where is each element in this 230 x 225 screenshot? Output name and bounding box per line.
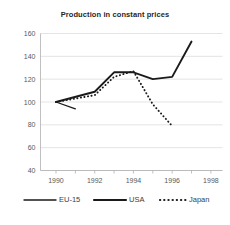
y-tick-label-100: 100 (24, 99, 36, 106)
chart-plot-svg: 406080100120140160 19901992199419961998 … (0, 0, 230, 225)
data-series (56, 41, 192, 125)
gridlines (41, 34, 223, 171)
legend-label-usa: USA (129, 195, 144, 204)
x-tick-label-1990: 1990 (48, 177, 64, 184)
y-tick-label-80: 80 (28, 121, 36, 128)
y-tick-label-160: 160 (24, 30, 36, 37)
chart-container: Production in constant prices 4060801001… (0, 0, 230, 225)
legend-label-eu-15: EU-15 (59, 195, 80, 204)
y-tick-label-120: 120 (24, 76, 36, 83)
y-tick-label-140: 140 (24, 53, 36, 60)
legend-label-japan: Japan (189, 195, 209, 204)
x-tick-label-1994: 1994 (126, 177, 142, 184)
x-tick-label-1998: 1998 (203, 177, 219, 184)
series-line-usa (56, 41, 192, 102)
series-line-eu-15 (56, 102, 75, 109)
y-axis: 406080100120140160 (24, 30, 41, 174)
x-tick-label-1996: 1996 (164, 177, 180, 184)
x-tick-label-1992: 1992 (87, 177, 103, 184)
y-tick-label-60: 60 (28, 144, 36, 151)
chart-legend: EU-15USAJapan (24, 195, 209, 204)
x-axis: 19901992199419961998 (41, 171, 223, 184)
y-tick-label-40: 40 (28, 167, 36, 174)
